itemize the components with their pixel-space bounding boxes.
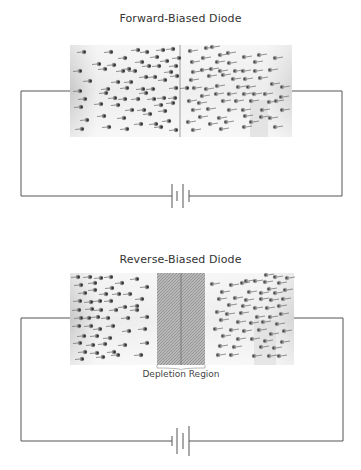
- diode-diagrams: [0, 0, 361, 470]
- reverse-battery-symbol: [172, 426, 189, 456]
- forward-circuit: [21, 45, 342, 208]
- depletion-region-label: Depletion Region: [131, 369, 231, 379]
- depletion-region: [157, 273, 205, 370]
- reverse-circuit: [21, 273, 343, 456]
- forward-battery-symbol: [172, 184, 189, 208]
